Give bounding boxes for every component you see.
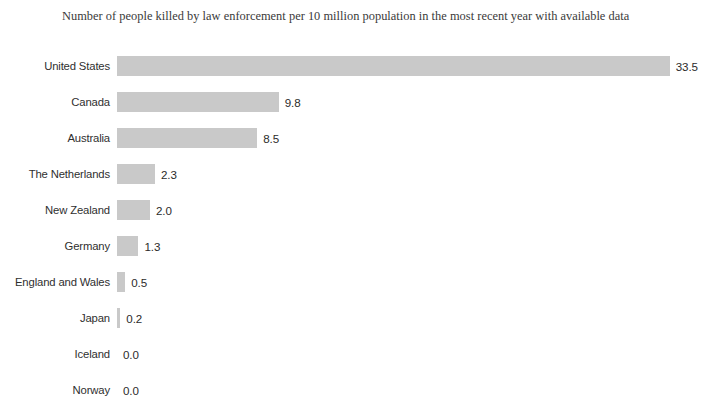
bar-track: 2.0 <box>117 192 701 228</box>
bar-track: 0.5 <box>117 264 701 300</box>
bar-row: The Netherlands2.3 <box>0 156 701 192</box>
bar-track: 0.0 <box>117 336 701 372</box>
bar-value-label: 2.0 <box>156 200 172 220</box>
bar-chart-figure: Number of people killed by law enforceme… <box>0 0 701 407</box>
bar-row: Japan0.2 <box>0 300 701 336</box>
bar-row: United States33.5 <box>0 48 701 84</box>
category-label: Australia <box>0 120 110 156</box>
bar-value-label: 9.8 <box>285 92 301 112</box>
bar-row: Canada9.8 <box>0 84 701 120</box>
bar-value-label: 8.5 <box>263 128 279 148</box>
bar-row: England and Wales0.5 <box>0 264 701 300</box>
bar-value-label: 0.0 <box>123 380 139 400</box>
bar-fill <box>117 92 279 112</box>
bar-fill <box>117 56 670 76</box>
bar-row: New Zealand2.0 <box>0 192 701 228</box>
category-label: Iceland <box>0 336 110 372</box>
category-label: England and Wales <box>0 264 110 300</box>
bar-track: 1.3 <box>117 228 701 264</box>
chart-title: Number of people killed by law enforceme… <box>62 8 682 24</box>
bar-track: 0.2 <box>117 300 701 336</box>
chart-plot-area: United States33.5Canada9.8Australia8.5Th… <box>0 48 701 407</box>
bar-row: Norway0.0 <box>0 372 701 407</box>
category-label: Germany <box>0 228 110 264</box>
bar-value-label: 0.5 <box>131 272 147 292</box>
bar-row: Germany1.3 <box>0 228 701 264</box>
bar-fill <box>117 308 120 328</box>
bar-value-label: 2.3 <box>161 164 177 184</box>
category-label: United States <box>0 48 110 84</box>
bar-track: 0.0 <box>117 372 701 407</box>
category-label: Canada <box>0 84 110 120</box>
bar-fill <box>117 236 138 256</box>
bar-value-label: 0.0 <box>123 344 139 364</box>
bar-track: 9.8 <box>117 84 701 120</box>
category-label: The Netherlands <box>0 156 110 192</box>
bar-fill <box>117 164 155 184</box>
bar-fill <box>117 128 257 148</box>
bar-fill <box>117 200 150 220</box>
bar-value-label: 1.3 <box>144 236 160 256</box>
bar-track: 2.3 <box>117 156 701 192</box>
category-label: New Zealand <box>0 192 110 228</box>
bar-value-label: 33.5 <box>676 56 698 76</box>
bar-track: 33.5 <box>117 48 701 84</box>
category-label: Japan <box>0 300 110 336</box>
bar-value-label: 0.2 <box>126 308 142 328</box>
category-label: Norway <box>0 372 110 407</box>
bar-track: 8.5 <box>117 120 701 156</box>
bar-fill <box>117 272 125 292</box>
bar-row: Iceland0.0 <box>0 336 701 372</box>
bar-row: Australia8.5 <box>0 120 701 156</box>
